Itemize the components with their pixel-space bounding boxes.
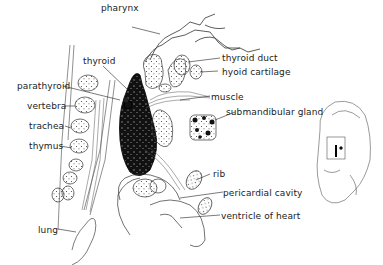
pharyngeal-lobes [143, 54, 202, 92]
label-pericardial-cavity: pericardial cavity [223, 188, 303, 198]
lung-structure [72, 218, 96, 265]
label-trachea: trachea [29, 121, 64, 131]
label-thymus: thymus [29, 141, 63, 151]
label-pharynx: pharynx [101, 3, 139, 13]
ribs [183, 168, 215, 217]
label-thyroid: thyroid [83, 56, 115, 66]
label-lung: lung [38, 225, 58, 235]
label-ventricle-of-heart: ventricle of heart [221, 211, 300, 221]
label-muscle: muscle [211, 92, 244, 102]
label-rib: rib [213, 169, 225, 179]
body-wall [58, 45, 115, 230]
label-hyoid-cartilage: hyoid cartilage [222, 67, 291, 77]
label-parathyroid: parathyroid [17, 81, 70, 91]
thyroid-gland [120, 74, 157, 176]
label-submandibular-gland: submandibular gland [226, 107, 323, 117]
trachea-structure [82, 98, 104, 212]
submandibular-gland [190, 115, 216, 140]
embryo-inset [317, 101, 370, 203]
label-vertebra: vertebra [27, 101, 66, 111]
label-thyroid-duct: thyroid duct [222, 53, 278, 63]
